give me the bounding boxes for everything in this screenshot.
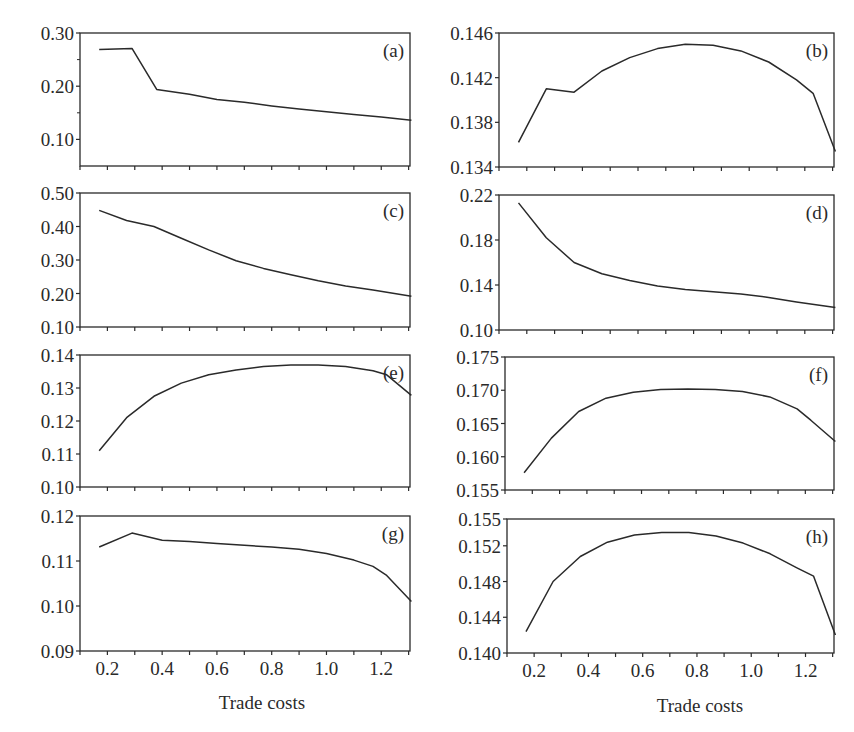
y-tick-label: 0.140	[458, 643, 501, 664]
y-tick-label: 0.134	[450, 157, 493, 178]
x-tick-label: 0.2	[522, 660, 546, 681]
y-tick-label: 0.11	[41, 444, 74, 465]
x-tick-label: 1.0	[739, 660, 763, 681]
y-tick-label: 0.165	[456, 414, 499, 435]
panel-c: 0.100.200.300.400.50(c)	[41, 183, 412, 338]
panel-b: 0.1340.1380.1420.146(b)	[450, 23, 835, 178]
panel-label: (f)	[809, 364, 828, 386]
y-tick-label: 0.10	[41, 317, 74, 338]
x-axis-label-left: Trade costs	[219, 692, 305, 713]
x-tick-label: 0.4	[577, 660, 601, 681]
plot-frame	[80, 193, 410, 327]
plot-frame	[499, 33, 834, 167]
plot-frame	[499, 195, 834, 330]
y-tick-label: 0.12	[41, 506, 74, 527]
series-line	[99, 533, 411, 601]
y-tick-label: 0.14	[41, 345, 75, 366]
y-tick-label: 0.30	[41, 250, 74, 271]
plot-frame	[507, 519, 834, 653]
x-tick-label: 1.2	[369, 658, 393, 679]
y-tick-label: 0.40	[41, 217, 74, 238]
y-tick-label: 0.10	[460, 320, 493, 341]
x-tick-label: 1.0	[315, 658, 339, 679]
y-tick-label: 0.11	[41, 551, 74, 572]
panel-a: 0.100.200.30(a)	[41, 23, 412, 170]
y-tick-label: 0.10	[41, 477, 74, 498]
y-tick-label: 0.14	[460, 275, 494, 296]
panel-label: (d)	[806, 202, 828, 224]
plot-frame	[505, 357, 834, 490]
y-tick-label: 0.10	[41, 129, 74, 150]
panel-g: 0.090.100.110.12(g)0.20.40.60.81.01.2	[41, 506, 412, 679]
panel-label: (e)	[383, 362, 404, 384]
panel-e: 0.100.110.120.130.14(e)	[41, 345, 412, 498]
panel-h: 0.1400.1440.1480.1520.155(h)0.20.40.60.8…	[458, 509, 835, 681]
y-tick-label: 0.50	[41, 183, 74, 204]
y-tick-label: 0.148	[458, 572, 501, 593]
y-tick-label: 0.20	[41, 284, 74, 305]
x-tick-label: 0.2	[96, 658, 120, 679]
panel-f: 0.1550.1600.1650.1700.175(f)	[456, 347, 835, 501]
panel-d: 0.100.140.180.22(d)	[460, 185, 836, 341]
series-line	[99, 48, 411, 120]
y-tick-label: 0.170	[456, 380, 499, 401]
y-tick-label: 0.142	[450, 68, 493, 89]
y-tick-label: 0.13	[41, 378, 74, 399]
y-tick-label: 0.155	[458, 509, 501, 530]
panel-label: (g)	[382, 523, 404, 545]
x-tick-label: 0.6	[205, 658, 229, 679]
y-tick-label: 0.18	[460, 230, 493, 251]
y-tick-label: 0.144	[458, 607, 501, 628]
y-tick-label: 0.175	[456, 347, 499, 368]
x-tick-label: 0.8	[685, 660, 709, 681]
series-line	[524, 389, 835, 473]
x-tick-label: 1.2	[794, 660, 818, 681]
y-tick-label: 0.146	[450, 23, 493, 44]
panel-label: (c)	[383, 200, 404, 222]
y-tick-label: 0.12	[41, 411, 74, 432]
plot-frame	[80, 516, 410, 651]
plot-frame	[80, 33, 410, 166]
series-line	[526, 532, 835, 635]
x-axis-label-right: Trade costs	[657, 695, 743, 716]
plot-frame	[80, 355, 410, 487]
y-tick-label: 0.20	[41, 76, 74, 97]
x-tick-label: 0.8	[260, 658, 284, 679]
y-tick-label: 0.160	[456, 447, 499, 468]
y-tick-label: 0.09	[41, 641, 74, 662]
series-line	[519, 44, 836, 151]
series-line	[99, 365, 411, 451]
figure: 0.100.200.30(a) 0.1340.1380.1420.146(b) …	[0, 0, 854, 732]
y-tick-label: 0.152	[458, 536, 501, 557]
panel-label: (b)	[806, 40, 828, 62]
y-tick-label: 0.155	[456, 480, 499, 501]
y-tick-label: 0.30	[41, 23, 74, 44]
y-tick-label: 0.138	[450, 112, 493, 133]
x-tick-label: 0.4	[150, 658, 174, 679]
panel-label: (h)	[806, 526, 828, 548]
series-line	[519, 203, 836, 308]
series-line	[99, 210, 411, 296]
y-tick-label: 0.22	[460, 185, 493, 206]
x-tick-label: 0.6	[631, 660, 655, 681]
y-tick-label: 0.10	[41, 596, 74, 617]
panel-label: (a)	[383, 40, 404, 62]
